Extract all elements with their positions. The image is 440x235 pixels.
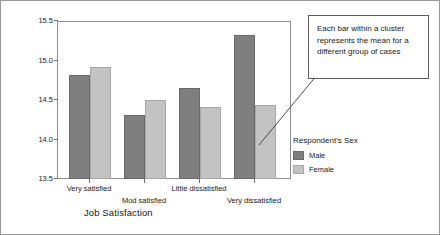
y-tick-14-5: 14.5 (1, 95, 57, 105)
bar-mod-satisfied-female (145, 100, 166, 179)
bar-mod-satisfied-male (124, 115, 145, 179)
y-tick-15-0: 15.0 (1, 56, 57, 66)
bar-very-satisfied-male (69, 75, 90, 179)
legend: Respondent's Sex Male Female (293, 136, 403, 179)
x-tick-mark (144, 179, 145, 183)
x-label-very-dissatisfied: Very dissatisfied (227, 196, 281, 205)
legend-item-male: Male (293, 151, 403, 160)
bar-very-dissatisfied-male (234, 35, 255, 179)
legend-swatch-male (293, 151, 304, 160)
bar-little-dissatisfied-male (179, 88, 200, 179)
legend-title: Respondent's Sex (293, 136, 403, 145)
y-tick-13-5: 13.5 (1, 174, 57, 184)
x-axis-title: Job Satisfaction (84, 207, 153, 218)
bar-very-satisfied-female (90, 67, 111, 179)
x-label-little-dissatisfied: Little dissatisfied (171, 184, 226, 193)
x-label-mod-satisfied: Mod satisfied (122, 196, 166, 205)
legend-label-female: Female (309, 165, 334, 174)
x-tick-mark (89, 179, 90, 183)
legend-swatch-female (293, 165, 304, 174)
y-tick-15-5: 15.5 (1, 16, 57, 26)
x-tick-mark (254, 179, 255, 183)
x-label-very-satisfied: Very satisfied (67, 184, 112, 193)
legend-label-male: Male (309, 151, 325, 160)
callout-text: Each bar within a cluster represents the… (317, 23, 420, 58)
x-tick-mark (199, 179, 200, 183)
chart-screenshot: Mean Highest Year of School Completed 15… (0, 0, 440, 235)
y-tick-14-0: 14.0 (1, 135, 57, 145)
bar-little-dissatisfied-female (200, 107, 221, 179)
bar-very-dissatisfied-female (255, 105, 276, 179)
callout-annotation: Each bar within a cluster represents the… (308, 15, 429, 79)
bars-layer (57, 21, 291, 179)
legend-item-female: Female (293, 165, 403, 174)
